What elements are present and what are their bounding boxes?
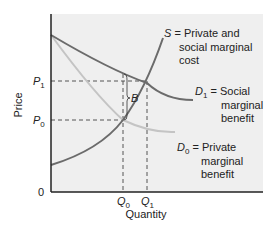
d0-curve-label-line2: marginal — [201, 155, 243, 167]
d1-curve-label-line2: marginal — [221, 99, 263, 111]
externality-diagram: B Price Quantity 0 P1 P0 Q0 Q1 S = Priva… — [0, 0, 276, 236]
x-axis-label: Quantity — [126, 208, 167, 220]
d1-curve-label-line3: benefit — [221, 112, 254, 124]
s-curve-label-line3: cost — [179, 54, 199, 66]
q0-label: Q0 — [117, 195, 131, 210]
p0-label: P0 — [33, 114, 45, 129]
gap-label: B — [131, 92, 138, 104]
y-axis-label: Price — [12, 92, 24, 117]
s-curve-label-line2: social marginal — [179, 41, 252, 53]
p1-label: P1 — [33, 75, 45, 90]
s-curve-label: S = Private and — [164, 27, 240, 39]
origin-label: 0 — [38, 186, 44, 198]
d0-curve-label-line3: benefit — [201, 168, 234, 180]
